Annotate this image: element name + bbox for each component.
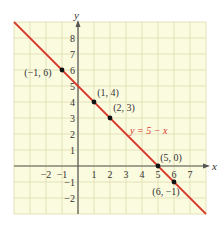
x-tick-label: 6 <box>172 169 177 180</box>
point-label: (5, 0) <box>160 152 182 164</box>
x-tick-label: 1 <box>92 169 97 180</box>
data-point <box>60 68 65 73</box>
y-tick-label: 2 <box>70 129 75 140</box>
data-point <box>92 100 97 105</box>
x-tick-label: 3 <box>124 169 129 180</box>
line-chart: −2−1123456787654321−1−2 (−1, 6)(1, 4)(2,… <box>0 0 221 226</box>
x-tick-label: 2 <box>108 169 113 180</box>
point-label: (1, 4) <box>97 87 119 99</box>
x-tick-label: 5 <box>156 169 161 180</box>
y-axis-label: y <box>73 9 79 21</box>
point-label: (6, −1) <box>152 186 179 198</box>
x-tick-label: 4 <box>140 169 145 180</box>
y-tick-label: 1 <box>70 145 75 156</box>
x-tick-label: −2 <box>41 169 52 180</box>
data-point <box>108 116 113 121</box>
y-tick-label: 6 <box>70 65 75 76</box>
y-tick-label: 7 <box>70 49 75 60</box>
y-tick-label: 8 <box>70 33 75 44</box>
y-tick-label: −1 <box>64 177 75 188</box>
y-tick-label: 4 <box>70 97 75 108</box>
x-tick-label: 7 <box>188 169 193 180</box>
equation-label: y = 5 − x <box>129 125 168 136</box>
point-label: (2, 3) <box>113 102 135 114</box>
y-tick-label: −2 <box>64 193 75 204</box>
point-label: (−1, 6) <box>24 67 51 79</box>
data-point <box>156 164 161 169</box>
y-tick-label: 3 <box>70 113 75 124</box>
data-point <box>172 180 177 185</box>
x-axis-label: x <box>211 160 217 172</box>
